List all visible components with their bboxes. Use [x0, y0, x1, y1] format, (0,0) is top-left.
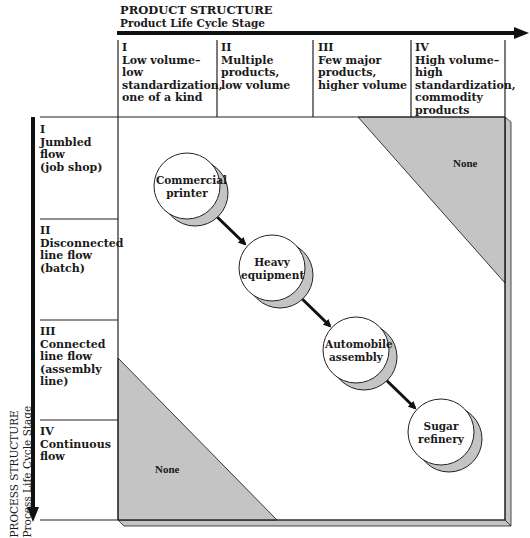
row-header-1: I Jumbled flow (job shop): [40, 124, 118, 174]
column-3-roman: III: [318, 42, 410, 55]
column-header-3: III Few major products, higher volume: [318, 42, 410, 92]
none-label-bottom-left: None: [155, 463, 179, 475]
column-header-2: II Multiple products, low volume: [221, 42, 311, 92]
row-4-roman: IV: [40, 426, 118, 439]
row-3-line: line flow: [40, 351, 118, 364]
none-region-bottom-left: [118, 358, 277, 520]
node-sugar-refinery: Sugar refinery: [410, 420, 472, 445]
column-1-line: Low volume–low: [122, 55, 216, 80]
node-label-line: Automobile: [325, 338, 387, 351]
column-header-1: I Low volume–low standardization, one of…: [122, 42, 216, 105]
row-1-line: (job shop): [40, 162, 118, 175]
row-1-line: Jumbled flow: [40, 137, 118, 162]
node-label-line: Heavy: [241, 256, 303, 269]
node-commercial-printer: Commercial printer: [156, 174, 218, 199]
node-heavy-equipment: Heavy equipment: [241, 256, 303, 281]
row-3-line: (assembly line): [40, 364, 118, 389]
column-1-roman: I: [122, 42, 216, 55]
column-3-line: higher volume: [318, 80, 410, 93]
row-header-3: III Connected line flow (assembly line): [40, 326, 118, 389]
none-region-top-right: [358, 117, 505, 283]
column-4-line: commodity: [415, 92, 507, 105]
row-header-4: IV Continuous flow: [40, 426, 118, 464]
row-header-2: II Disconnected line flow (batch): [40, 225, 118, 275]
product-axis-arrow: [117, 27, 529, 39]
row-3-roman: III: [40, 326, 118, 339]
row-2-roman: II: [40, 225, 118, 238]
column-2-line: products,: [221, 67, 311, 80]
column-2-line: low volume: [221, 80, 311, 93]
column-2-roman: II: [221, 42, 311, 55]
node-label-line: printer: [156, 187, 218, 200]
node-label-line: Commercial: [156, 174, 218, 187]
row-2-line: line flow: [40, 250, 118, 263]
process-structure-label: PROCESS STRUCTURE Process Life Cycle Sta…: [8, 338, 33, 538]
row-4-line: flow: [40, 451, 118, 464]
process-structure-title: PROCESS STRUCTURE: [8, 338, 21, 538]
column-header-4: IV High volume–high standardization, com…: [415, 42, 507, 117]
process-life-cycle-subtitle: Process Life Cycle Stage: [20, 338, 33, 538]
node-label-line: equipment: [241, 269, 303, 282]
node-label-line: assembly: [325, 351, 387, 364]
node-automobile-assembly: Automobile assembly: [325, 338, 387, 363]
column-4-roman: IV: [415, 42, 507, 55]
node-label-line: refinery: [410, 433, 472, 446]
column-3-line: products,: [318, 67, 410, 80]
column-4-line: High volume–high: [415, 55, 507, 80]
row-2-line: (batch): [40, 263, 118, 276]
column-1-line: one of a kind: [122, 92, 216, 105]
row-1-roman: I: [40, 124, 118, 137]
none-label-top-right: None: [453, 157, 477, 169]
node-label-line: Sugar: [410, 420, 472, 433]
column-4-line: products: [415, 105, 507, 118]
